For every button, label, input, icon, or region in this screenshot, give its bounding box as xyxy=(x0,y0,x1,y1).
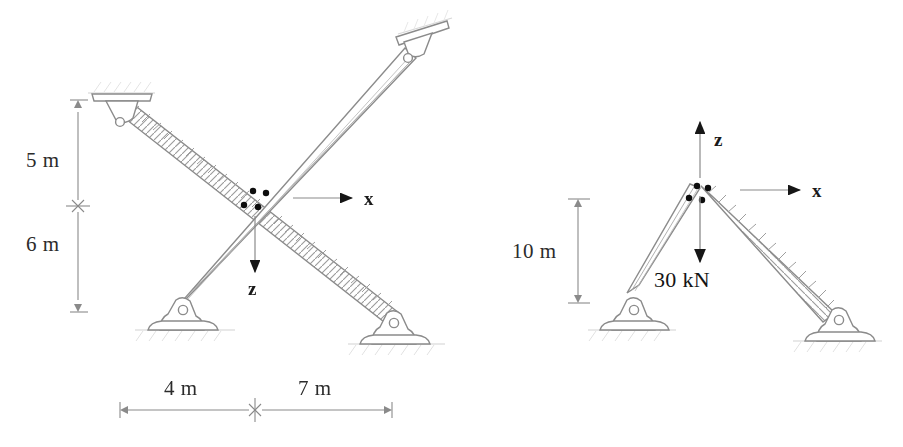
left-z-axis-label: z xyxy=(248,278,256,300)
truss-linework xyxy=(0,0,903,447)
left-dim-label-5m: 5 m xyxy=(26,148,60,173)
left-ceiling-hatch-tl xyxy=(88,82,155,93)
right-vertical-dimension xyxy=(568,199,590,303)
right-x-axis-label: x xyxy=(812,180,822,202)
left-figure-group xyxy=(66,10,452,422)
left-horizontal-dimension xyxy=(120,398,392,422)
left-support-bottom-left xyxy=(148,298,218,330)
left-support-bottom-right xyxy=(360,311,430,344)
left-ground-hatch-br xyxy=(348,344,445,355)
left-vertical-dimension xyxy=(66,100,90,312)
right-load-label: 30 kN xyxy=(654,267,710,293)
left-x-axis-label: x xyxy=(364,188,374,210)
left-dim-label-7m: 7 m xyxy=(298,376,332,401)
left-dim-label-6m: 6 m xyxy=(26,232,60,257)
diagram-canvas: 5 m 6 m 4 m 7 m x z 10 m z x 30 kN xyxy=(0,0,903,447)
right-figure-group xyxy=(568,122,882,352)
left-ground-hatch-bl xyxy=(135,330,235,341)
right-support-left xyxy=(600,298,669,330)
right-member-right xyxy=(701,186,835,322)
right-dim-label-10m: 10 m xyxy=(512,239,557,264)
right-ground-hatch-r xyxy=(793,341,882,352)
right-ground-hatch-l xyxy=(588,330,676,341)
left-dim-label-4m: 4 m xyxy=(164,376,198,401)
right-z-axis-label: z xyxy=(714,129,722,151)
